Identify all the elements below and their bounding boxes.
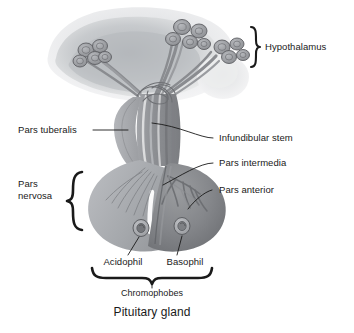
- label-pars-nervosa-line1: Pars: [18, 178, 66, 190]
- label-pars-anterior: Pars anterior: [219, 184, 274, 196]
- label-infundibular-stem: Infundibular stem: [219, 132, 293, 144]
- pituitary-gland-figure: Hypothalamus Pars tuberalis Infundibular…: [0, 0, 354, 333]
- label-acidophil: Acidophil: [93, 256, 153, 268]
- figure-title: Pituitary gland: [92, 305, 212, 319]
- label-basophil: Basophil: [155, 256, 215, 268]
- basophil-cell: [174, 218, 190, 235]
- label-pars-nervosa: Pars nervosa: [18, 178, 66, 201]
- label-hypothalamus: Hypothalamus: [265, 41, 326, 53]
- brace-chromophobes: [92, 268, 212, 284]
- optic-lobe: [197, 55, 249, 99]
- label-pars-intermedia: Pars intermedia: [219, 157, 286, 169]
- acidophil-cell: [133, 220, 149, 237]
- brace-hypothalamus: [251, 27, 260, 67]
- infundibular-stem-structure: [137, 94, 181, 166]
- label-chromophobes: Chromophobes: [102, 288, 202, 299]
- label-pars-tuberalis: Pars tuberalis: [18, 124, 77, 136]
- brace-pars-nervosa: [67, 172, 82, 230]
- label-pars-nervosa-line2: nervosa: [18, 190, 66, 202]
